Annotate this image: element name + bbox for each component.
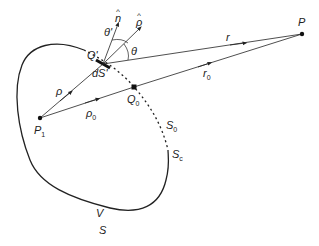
label-V: V [96,207,105,219]
label-rho: ρ [55,85,62,97]
label-P1: P1 [34,124,45,138]
label-S0: S0 [166,119,177,133]
label-Q0: Q0 [127,93,140,107]
label-Sc: Sc [172,148,183,162]
point-P1 [38,116,42,120]
label-theta: θ [131,45,137,57]
label-theta-prime: θ' [104,26,113,38]
aperture-dotted-curve [84,50,168,150]
label-r0: r0 [203,67,211,81]
point-Q0 [132,85,137,90]
hat-n: ^ [116,7,120,16]
angle-arc-theta [124,44,129,60]
point-P [300,32,304,36]
hat-p: ^ [137,11,141,20]
label-r: r [226,31,231,43]
label-dS-prime: dS' [92,67,108,79]
diffraction-geometry-diagram: P P1 Q' Q0 dS' r r0 ρ ρ0 n ^ ρ ^ θ' θ S0… [0,0,319,246]
label-P: P [298,16,306,28]
label-rho0: ρ0 [85,107,96,121]
label-S: S [99,224,107,236]
label-Q-prime: Q' [87,49,99,61]
vector-r0 [134,34,302,87]
